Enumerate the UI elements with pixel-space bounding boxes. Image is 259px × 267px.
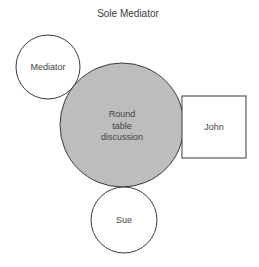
- diagram-canvas: Sole Mediator Mediator Round table discu…: [0, 0, 259, 267]
- node-john: John: [182, 96, 246, 158]
- sue-label: Sue: [116, 215, 132, 225]
- node-sue: Sue: [91, 187, 157, 253]
- diagram-title: Sole Mediator: [97, 8, 159, 19]
- node-mediator: Mediator: [16, 35, 80, 99]
- round-table-label-line-2: table: [112, 121, 132, 131]
- mediator-label: Mediator: [30, 62, 65, 72]
- diagram-svg: Sole Mediator Mediator Round table discu…: [0, 0, 259, 267]
- round-table-label-line-1: Round: [109, 109, 136, 119]
- john-label: John: [204, 122, 224, 132]
- round-table-label-line-3: discussion: [101, 132, 143, 142]
- node-round-table: Round table discussion: [60, 63, 184, 187]
